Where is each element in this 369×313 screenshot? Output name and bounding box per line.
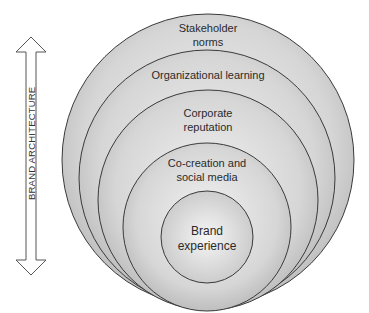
- label-co-creation-line2: social media: [176, 171, 238, 183]
- label-co-creation-line1: Co-creation and: [168, 157, 246, 169]
- label-stakeholder-line2: norms: [193, 36, 224, 48]
- brand-architecture-diagram: BRAND ARCHITECTURE Stakeholder norms Org…: [0, 0, 369, 313]
- label-organizational-learning: Organizational learning: [151, 69, 264, 81]
- label-brand-experience-line2: experience: [178, 239, 237, 253]
- label-corporate-line2: reputation: [184, 121, 233, 133]
- brand-architecture-arrow: BRAND ARCHITECTURE: [16, 37, 46, 275]
- label-brand-experience-line1: Brand: [191, 224, 223, 238]
- label-corporate-line1: Corporate: [184, 107, 233, 119]
- arrow-label: BRAND ARCHITECTURE: [26, 87, 37, 200]
- label-stakeholder-line1: Stakeholder: [179, 22, 238, 34]
